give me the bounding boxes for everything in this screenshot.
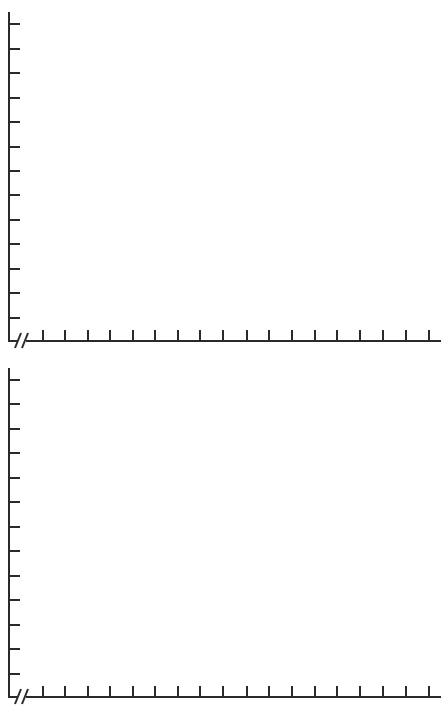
graph-stack	[0, 0, 447, 714]
plot-area	[9, 12, 441, 341]
graph-canvas	[0, 0, 447, 714]
bottom-graph	[8, 368, 441, 704]
top-graph	[8, 12, 441, 348]
plot-area	[9, 368, 441, 697]
